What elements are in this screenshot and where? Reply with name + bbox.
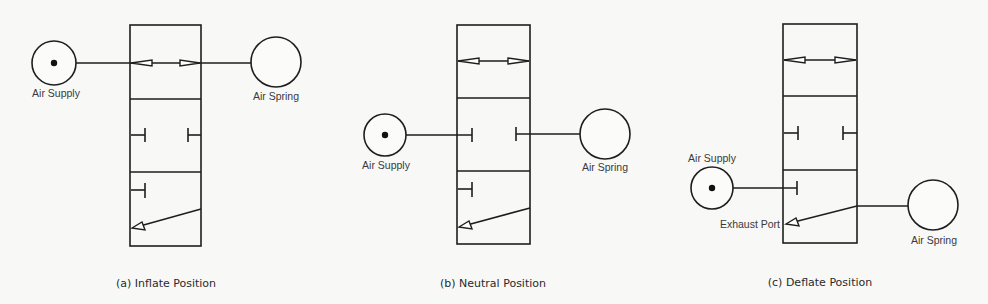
exhaust-arrowhead-icon — [786, 218, 799, 226]
blocked-port-icon — [131, 128, 145, 142]
caption-neutral: (b) Neutral Position — [440, 277, 546, 290]
caption-inflate: (a) Inflate Position — [116, 277, 216, 290]
air-supply-dot-icon — [51, 60, 57, 66]
air-supply-label: Air Supply — [32, 87, 81, 99]
arrowhead-right-icon — [835, 57, 856, 63]
panel-neutral: Air Supply Air Spring (b) Neutral Positi… — [362, 25, 630, 290]
air-spring-icon — [580, 109, 630, 159]
blocked-port-icon — [131, 183, 145, 198]
air-spring-label: Air Spring — [911, 234, 957, 246]
air-supply-label: Air Supply — [688, 152, 737, 164]
exhaust-port-label: Exhaust Port — [720, 218, 780, 230]
blocked-port-icon — [784, 126, 798, 140]
exhaust-arrowhead-icon — [459, 221, 472, 229]
blocked-port-icon — [843, 126, 857, 140]
air-spring-label: Air Spring — [253, 90, 299, 102]
arrowhead-left-icon — [458, 58, 479, 64]
panel-inflate: Air Supply Air Spring (a) Inflate Positi… — [32, 25, 301, 290]
exhaust-line — [140, 209, 201, 226]
air-supply-dot-icon — [709, 185, 715, 191]
valve-diagram: Air Supply Air Spring (a) Inflate Positi… — [0, 0, 988, 304]
exhaust-arrowhead-icon — [132, 222, 145, 230]
arrowhead-right-icon — [508, 58, 529, 64]
exhaust-line — [467, 208, 530, 225]
arrowhead-right-icon — [180, 60, 200, 66]
blocked-port-icon — [458, 182, 472, 197]
arrowhead-left-icon — [784, 57, 805, 63]
blocked-port-icon — [188, 128, 201, 142]
exhaust-line — [794, 206, 857, 222]
panel-deflate: Exhaust Port Air Supply Air Spring (c) D… — [688, 24, 958, 289]
air-spring-icon — [251, 37, 301, 87]
air-spring-label: Air Spring — [582, 161, 628, 173]
air-supply-dot-icon — [382, 132, 388, 138]
air-supply-label: Air Supply — [362, 159, 411, 171]
caption-deflate: (c) Deflate Position — [768, 276, 872, 289]
arrowhead-left-icon — [131, 60, 152, 66]
air-spring-icon — [908, 180, 958, 230]
